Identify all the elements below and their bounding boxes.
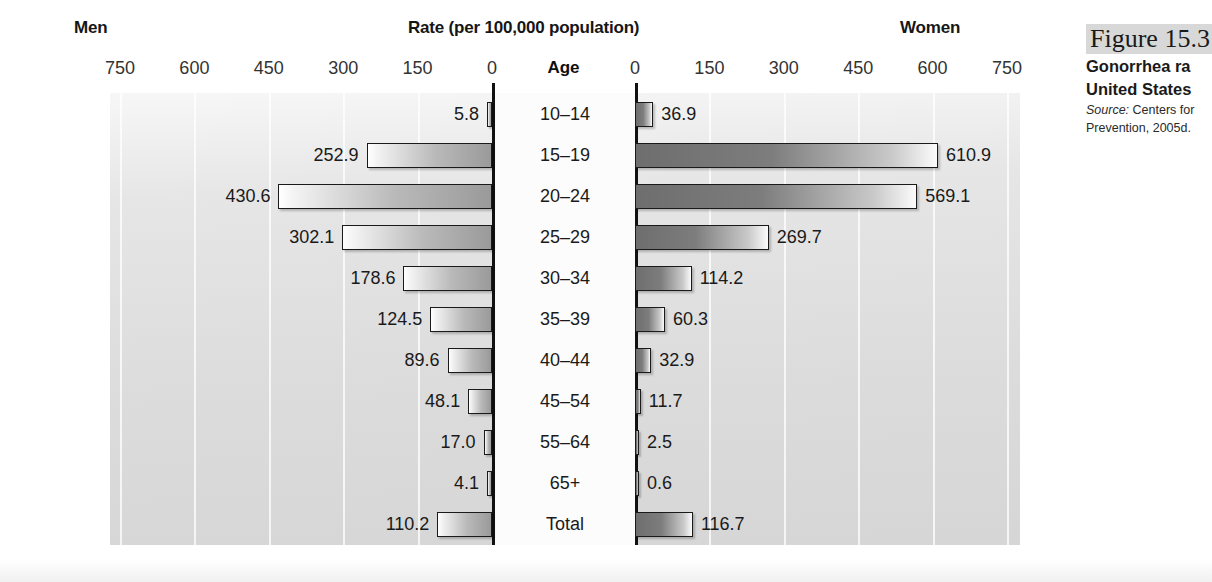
women-value-label: 569.1 (925, 186, 970, 207)
axis-tick-label: 0 (630, 58, 640, 79)
men-axis-label: Men (74, 18, 107, 38)
axis-tick-label: 450 (254, 58, 284, 79)
women-bar (635, 225, 769, 250)
age-group-label: 20–24 (495, 186, 635, 207)
men-value-label: 124.5 (377, 309, 422, 330)
chart-row: 17.055–642.5 (110, 423, 1020, 464)
age-group-label: Total (495, 514, 635, 535)
figure-chart: Men Rate (per 100,000 population) Women … (0, 0, 1060, 582)
men-value-label: 48.1 (425, 391, 460, 412)
women-value-label: 11.7 (649, 391, 683, 412)
women-value-label: 269.7 (777, 227, 822, 248)
men-value-label: 430.6 (225, 186, 270, 207)
women-value-label: 60.3 (673, 309, 708, 330)
women-bar (635, 471, 639, 496)
men-bar (484, 430, 492, 455)
source-text-1: Centers for (1133, 103, 1195, 117)
chart-row: 89.640–4432.9 (110, 341, 1020, 382)
axis-tick-label: 600 (918, 58, 948, 79)
caption-source-line-1: Source: Centers for (1086, 103, 1212, 118)
men-bar (430, 307, 492, 332)
chart-row: 430.620–24569.1 (110, 177, 1020, 218)
age-column-header: Age (547, 58, 579, 78)
women-value-label: 36.9 (661, 104, 696, 125)
women-bar (635, 430, 639, 455)
women-bar (635, 307, 665, 332)
axis-tick-label: 450 (843, 58, 873, 79)
women-bar (635, 512, 693, 537)
axis-tick-label: 300 (769, 58, 799, 79)
age-group-label: 15–19 (495, 145, 635, 166)
chart-row: 302.125–29269.7 (110, 218, 1020, 259)
men-bar (403, 266, 492, 291)
axis-tick-label: 150 (694, 58, 724, 79)
men-bar (437, 512, 492, 537)
women-value-label: 610.9 (946, 145, 991, 166)
men-bar (487, 471, 492, 496)
age-group-label: 10–14 (495, 104, 635, 125)
axis-tick-label: 750 (105, 58, 135, 79)
men-value-label: 17.0 (441, 432, 476, 453)
chart-row: 4.165+0.6 (110, 464, 1020, 505)
chart-row: 178.630–34114.2 (110, 259, 1020, 300)
women-bar (635, 102, 653, 127)
women-value-label: 0.6 (647, 473, 672, 494)
chart-row: 110.2Total116.7 (110, 505, 1020, 546)
men-value-label: 302.1 (289, 227, 334, 248)
caption-source-line-2: Prevention, 2005d. (1086, 121, 1212, 136)
men-value-label: 252.9 (314, 145, 359, 166)
women-axis-label: Women (900, 18, 960, 38)
axis-tick-label: 0 (487, 58, 497, 79)
men-bar (278, 184, 492, 209)
source-label: Source: (1086, 103, 1129, 117)
women-bar (635, 389, 641, 414)
axis-tick-label: 300 (328, 58, 358, 79)
men-value-label: 178.6 (350, 268, 395, 289)
men-value-label: 5.8 (454, 104, 479, 125)
age-group-label: 30–34 (495, 268, 635, 289)
men-bar (367, 143, 492, 168)
axis-tick-label: 600 (179, 58, 209, 79)
caption-title-line-1: Gonorrhea ra (1086, 56, 1212, 77)
axis-tick-label: 750 (992, 58, 1022, 79)
men-value-label: 89.6 (405, 350, 440, 371)
men-bar (342, 225, 492, 250)
chart-row: 252.915–19610.9 (110, 136, 1020, 177)
women-value-label: 2.5 (647, 432, 672, 453)
age-group-label: 45–54 (495, 391, 635, 412)
men-value-label: 4.1 (454, 473, 479, 494)
women-bar (635, 266, 692, 291)
men-bar (487, 102, 492, 127)
age-group-label: 35–39 (495, 309, 635, 330)
age-group-label: 40–44 (495, 350, 635, 371)
women-bar (635, 348, 651, 373)
age-group-label: 65+ (495, 473, 635, 494)
bar-rows: 5.810–1436.9252.915–19610.9430.620–24569… (110, 93, 1020, 545)
plot-area: 5.810–1436.9252.915–19610.9430.620–24569… (110, 93, 1020, 545)
women-value-label: 116.7 (701, 514, 745, 535)
men-bar (448, 348, 492, 373)
caption-title-line-2: United States (1086, 79, 1212, 100)
figure-caption: Figure 15.3 Gonorrhea ra United States S… (1086, 24, 1212, 136)
age-group-label: 55–64 (495, 432, 635, 453)
men-bar (468, 389, 492, 414)
women-bar (635, 143, 938, 168)
chart-title: Rate (per 100,000 population) (408, 18, 639, 38)
women-bar (635, 184, 917, 209)
figure-number: Figure 15.3 (1086, 24, 1212, 54)
men-value-label: 110.2 (386, 514, 430, 535)
women-value-label: 32.9 (659, 350, 694, 371)
women-value-label: 114.2 (700, 268, 744, 289)
chart-row: 124.535–3960.3 (110, 300, 1020, 341)
age-group-label: 25–29 (495, 227, 635, 248)
axis-tick-label: 150 (403, 58, 433, 79)
chart-row: 48.145–5411.7 (110, 382, 1020, 423)
axis-tick-row: 75060045030015000150300450600750Age (0, 58, 1060, 84)
chart-row: 5.810–1436.9 (110, 95, 1020, 136)
